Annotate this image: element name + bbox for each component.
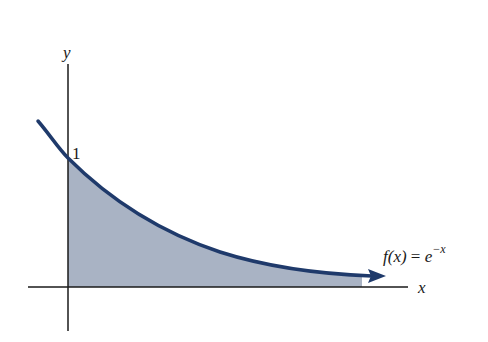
diagram-canvas: y 1 x f(x) = e−x <box>0 0 488 342</box>
x-axis-label: x <box>418 279 426 296</box>
plot-svg <box>0 0 488 342</box>
shaded-area <box>68 158 362 287</box>
function-exponent: −x <box>432 242 445 256</box>
y-axis-label: y <box>63 44 71 61</box>
function-eq: = <box>411 247 421 266</box>
y-intercept-label: 1 <box>72 145 81 162</box>
function-lhs: f(x) <box>383 247 407 266</box>
function-label: f(x) = e−x <box>383 245 446 265</box>
